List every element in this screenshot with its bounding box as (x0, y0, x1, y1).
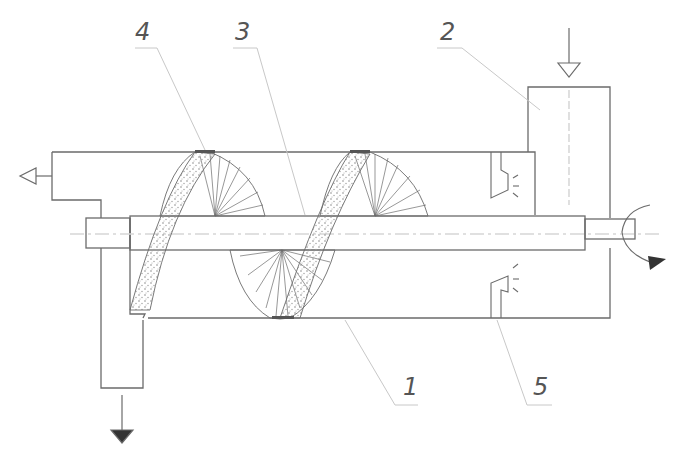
feed-hopper (528, 87, 610, 218)
feed-inlet-arrow-top (558, 28, 580, 77)
gas-outlet-arrow-left (20, 168, 52, 184)
callout-5: 5 (533, 373, 548, 401)
shaft-rotation-arrow (622, 205, 666, 270)
diagram-canvas: 4 3 2 1 5 (0, 0, 679, 455)
emitter-device (491, 152, 519, 318)
product-discharge-arrow-bottom (111, 395, 133, 443)
leader-lines (135, 48, 552, 405)
callout-2: 2 (440, 18, 455, 46)
callout-4: 4 (135, 18, 150, 46)
callout-3: 3 (235, 18, 250, 46)
callout-labels: 4 3 2 1 5 (135, 18, 548, 401)
callout-1: 1 (403, 373, 418, 401)
